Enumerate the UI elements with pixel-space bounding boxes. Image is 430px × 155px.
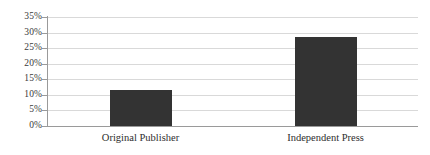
bar-chart: 0%5%10%15%20%25%30%35% Original Publishe… <box>0 0 430 155</box>
y-tick-mark <box>42 110 48 111</box>
y-tick-mark <box>42 95 48 96</box>
y-tick-mark <box>42 48 48 49</box>
gridline <box>48 79 418 80</box>
y-tick-mark <box>42 17 48 18</box>
y-tick-mark <box>42 79 48 80</box>
y-tick-label: 25% <box>2 43 42 53</box>
bar <box>110 90 172 126</box>
y-tick-label: 20% <box>2 59 42 69</box>
y-tick-label: 10% <box>2 90 42 100</box>
y-tick-mark <box>42 64 48 65</box>
x-tick-label: Original Publisher <box>102 133 179 144</box>
y-tick-label: 15% <box>2 75 42 85</box>
axis-baseline <box>48 126 418 127</box>
x-tick-label: Independent Press <box>287 133 364 144</box>
gridline <box>48 33 418 34</box>
bar <box>295 37 357 126</box>
y-tick-label: 5% <box>2 106 42 116</box>
gridline <box>48 17 418 18</box>
gridline <box>48 110 418 111</box>
y-tick-label: 30% <box>2 28 42 38</box>
gridline <box>48 64 418 65</box>
plot-area <box>48 17 418 126</box>
y-tick-label: 35% <box>2 12 42 22</box>
y-tick-mark <box>42 33 48 34</box>
gridline <box>48 95 418 96</box>
gridline <box>48 48 418 49</box>
y-tick-label: 0% <box>2 121 42 131</box>
y-tick-mark <box>42 126 48 127</box>
